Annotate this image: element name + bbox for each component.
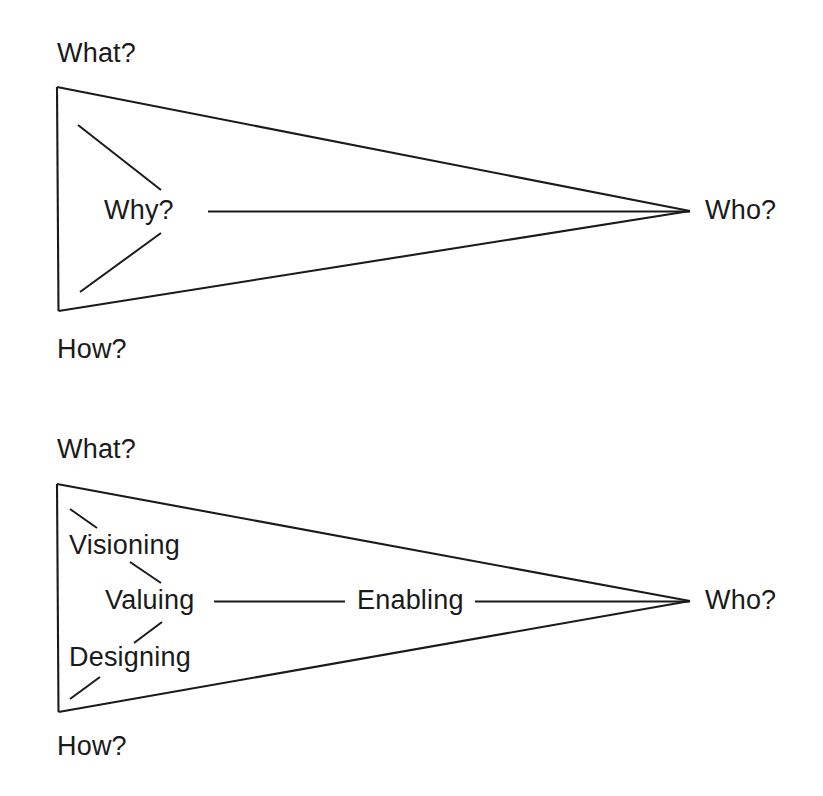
triangle2-left-edge: [57, 484, 59, 712]
label-valuing: Valuing: [105, 587, 194, 614]
label-why: Why?: [104, 197, 174, 224]
label-how-bottom: How?: [57, 733, 127, 760]
label-who-top: Who?: [705, 197, 776, 224]
triangle1-lower-edge: [59, 211, 691, 311]
connector-visioning-to-valuing: [130, 562, 161, 583]
diagram-page: What? How? Why? Who? What? How? Visionin…: [0, 0, 823, 796]
triangle1-left-edge: [57, 87, 59, 311]
connector-valuing-to-designing: [134, 622, 162, 643]
label-what-top: What?: [57, 40, 136, 67]
label-designing: Designing: [69, 644, 191, 671]
label-who-bottom: Who?: [705, 587, 776, 614]
label-how-top: How?: [57, 336, 127, 363]
diagram-vector-canvas: [0, 0, 823, 796]
label-enabling: Enabling: [357, 587, 464, 614]
triangle1-upper-edge: [57, 87, 690, 211]
label-visioning: Visioning: [69, 532, 180, 559]
label-what-bottom: What?: [57, 436, 136, 463]
connector-what-to-why: [78, 125, 161, 190]
connector-what-to-visioning: [70, 509, 97, 528]
connector-how-to-why: [80, 233, 161, 292]
connector-designing-to-how: [70, 677, 100, 699]
